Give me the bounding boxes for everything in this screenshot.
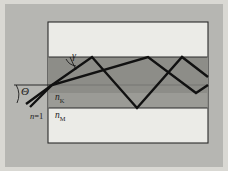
refractive-index-core-label: nK [55,93,64,104]
n-subscript-substrate: M [60,115,66,122]
n-subscript-core: K [60,97,65,104]
optical-waveguide-diagram: Θ γ n=1 nK nM [0,0,228,171]
refractive-index-substrate-label: nM [55,111,66,122]
diagram-canvas [0,0,228,171]
angle-gamma-label: γ [72,51,76,61]
angle-theta-label: Θ [21,86,29,97]
n-value-air: =1 [34,111,43,121]
refractive-index-air-label: n=1 [30,112,43,121]
